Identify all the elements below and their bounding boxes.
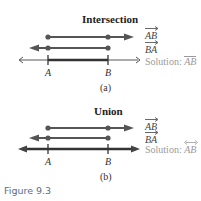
point-label-a: A: [45, 67, 51, 78]
label-ray-ba: BA: [145, 45, 157, 55]
ray-ba: [29, 135, 111, 142]
solution-label: Solution: AB: [145, 145, 196, 155]
panel-sublabel: (b): [100, 171, 112, 182]
solution-line: [19, 55, 140, 65]
point-label-b: B: [105, 67, 111, 78]
figure-caption: Figure 9.3: [4, 185, 51, 196]
panel-union: Union AB BA Solution: AB A B (: [0, 95, 201, 185]
panel-sublabel: (a): [100, 82, 111, 93]
panel-intersection: Intersection AB BA Sol: [0, 0, 201, 95]
ray-ab: [45, 34, 134, 41]
ray-ba: [29, 45, 111, 52]
solution-line: [18, 144, 140, 154]
point-label-a: A: [45, 156, 51, 167]
ray-ab: [45, 125, 134, 132]
intersection-diagram: [0, 0, 201, 95]
solution-label: Solution: AB: [145, 56, 196, 67]
point-label-b: B: [105, 156, 111, 167]
